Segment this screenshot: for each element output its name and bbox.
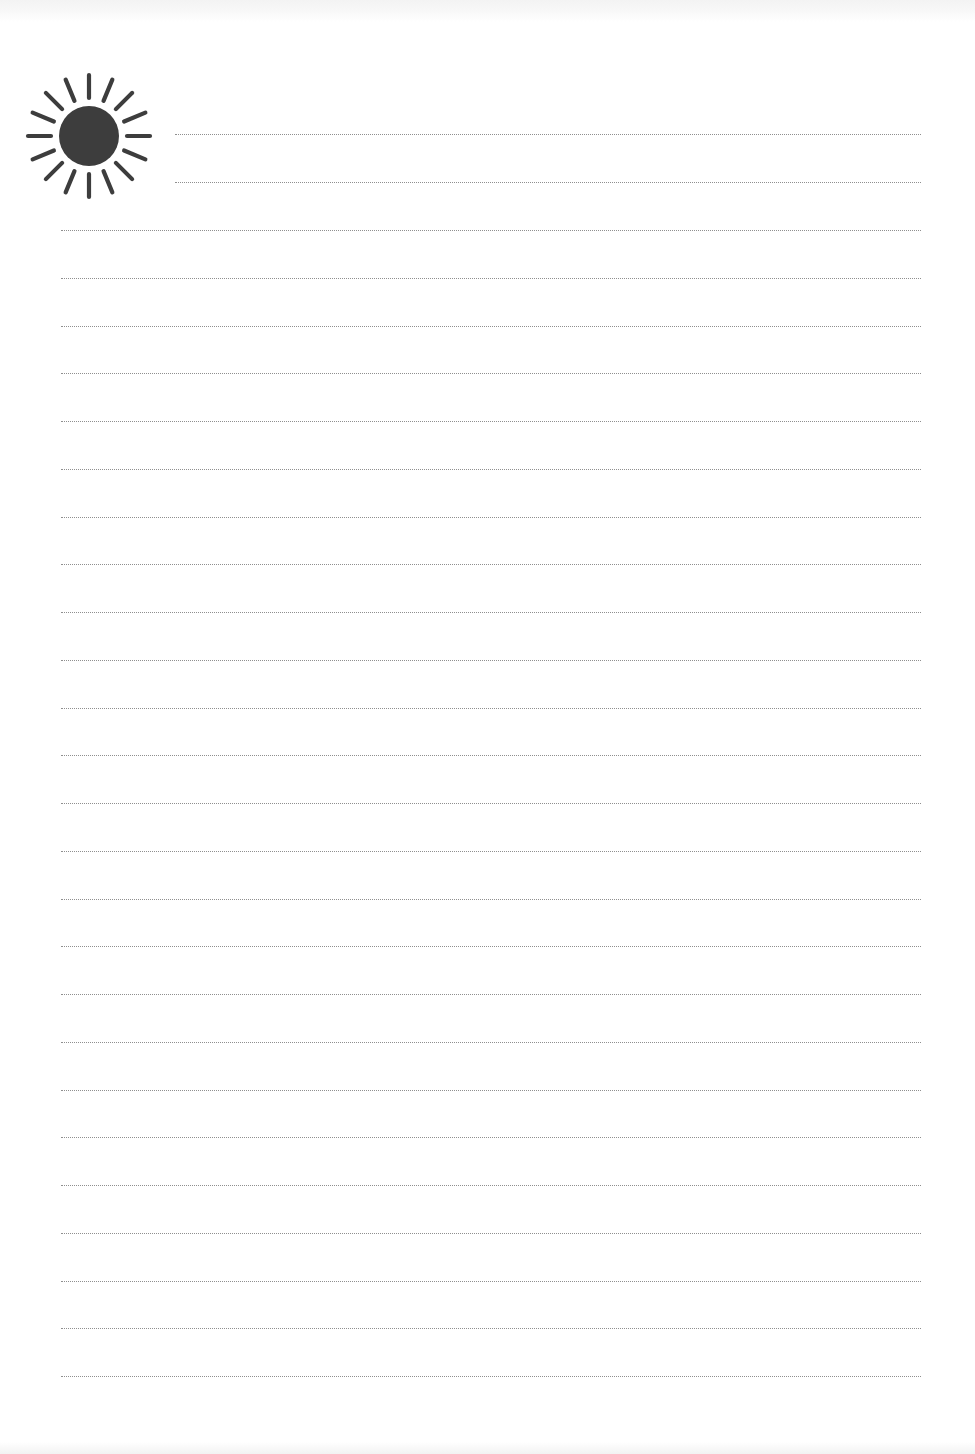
writing-line [61,326,921,327]
writing-line [61,803,921,804]
writing-line [61,1376,921,1377]
sun-ray [33,113,54,122]
writing-line [61,278,921,279]
writing-line [61,1042,921,1043]
writing-line [61,517,921,518]
notepaper-page [0,0,975,1454]
sun-ray [46,163,62,179]
writing-line [61,1281,921,1282]
writing-line [61,708,921,709]
sun-ray [66,171,75,192]
writing-line [61,230,921,231]
sun-ray [124,113,145,122]
writing-line [61,373,921,374]
sun-ray [33,151,54,160]
sun-icon [24,71,154,201]
paper-top-edge [0,0,975,22]
writing-line [61,755,921,756]
writing-line [61,564,921,565]
writing-line [61,1233,921,1234]
sun-ray [116,163,132,179]
writing-line [61,1137,921,1138]
writing-line [61,994,921,995]
writing-line [61,851,921,852]
writing-line-short [175,134,921,135]
sun-ray [116,93,132,109]
sun-ray [66,80,75,101]
writing-line [61,612,921,613]
writing-line-short [175,182,921,183]
sun-ray [124,151,145,160]
writing-line [61,469,921,470]
writing-line [61,660,921,661]
writing-line [61,1185,921,1186]
writing-line [61,946,921,947]
sun-ray [104,80,113,101]
sun-ray [104,171,113,192]
writing-line [61,899,921,900]
writing-line [61,1090,921,1091]
paper-bottom-edge [0,1442,975,1454]
writing-line [61,421,921,422]
writing-line [61,1328,921,1329]
sun-ray [46,93,62,109]
